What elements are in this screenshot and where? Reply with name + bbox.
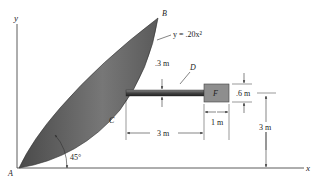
- dim-height: 3 m: [257, 93, 276, 167]
- x-axis-label: x: [305, 163, 310, 173]
- y-axis-label: y: [13, 13, 18, 23]
- svg-text:.3 m: .3 m: [155, 59, 170, 68]
- angle-label: 45°: [70, 153, 81, 162]
- mechanics-diagram: y x F A B C D y = .20x² 45° .3 m .6 m 3 …: [0, 0, 314, 177]
- svg-text:3 m: 3 m: [157, 129, 170, 138]
- label-d: D: [189, 63, 196, 72]
- label-c: C: [109, 116, 115, 125]
- svg-text:.6 m: .6 m: [236, 89, 251, 98]
- label-f: F: [212, 89, 218, 98]
- label-a: A: [7, 169, 13, 177]
- curve-equation: y = .20x²: [173, 30, 203, 39]
- leader-equation: [157, 35, 171, 40]
- rod-d: [126, 90, 204, 96]
- dim-block-height: .6 m: [232, 73, 252, 113]
- leader-d: [180, 72, 190, 84]
- dim-rod-diameter: .3 m: [155, 59, 170, 107]
- svg-text:1 m: 1 m: [211, 118, 224, 127]
- svg-text:3 m: 3 m: [259, 123, 272, 132]
- label-b: B: [162, 9, 167, 18]
- dim-rod-length: 3 m: [127, 129, 203, 138]
- dim-block-width: 1 m: [205, 112, 228, 127]
